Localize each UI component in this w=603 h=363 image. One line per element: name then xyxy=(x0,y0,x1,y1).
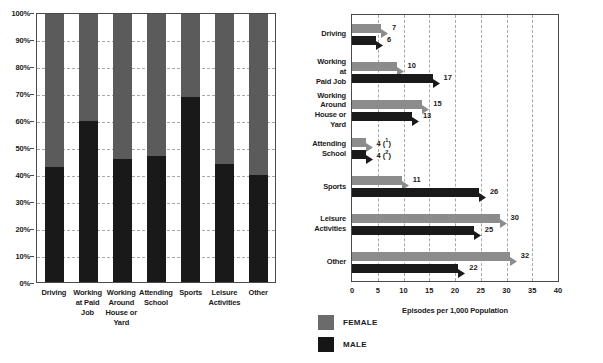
bar-row: 11 xyxy=(352,176,558,185)
label-line: Yard xyxy=(105,318,137,328)
bar-row: 4 (2) xyxy=(352,150,558,159)
bar-group: 76 xyxy=(352,15,558,53)
y-axis-category-label: LeisureActivities xyxy=(310,205,349,243)
label-line: Attending xyxy=(139,288,173,298)
label-block: Sports xyxy=(323,182,346,192)
bar-row: 26 xyxy=(352,188,558,197)
y-tick-mark xyxy=(30,94,34,95)
x-axis-category-label: LeisureActivities xyxy=(207,288,241,328)
label-line: House or xyxy=(105,308,137,318)
horizontal-bar-male xyxy=(352,264,465,273)
y-tick-mark xyxy=(30,13,34,14)
y-tick-label: 60% xyxy=(16,118,30,126)
y-tick-label: 20% xyxy=(16,226,30,234)
label-block: LeisureActivities xyxy=(314,214,346,234)
y-tick-label: 0% xyxy=(20,280,30,288)
label-block: Other xyxy=(327,257,346,267)
bar-row: 4 (1) xyxy=(352,138,558,147)
bar-arrow-tip-icon xyxy=(479,188,486,197)
label-line: Working xyxy=(72,288,104,298)
label-block: Driving xyxy=(321,29,346,39)
bar-body xyxy=(352,214,500,223)
x-tick-label: 20 xyxy=(451,287,459,295)
y-axis-category-label: AttendingSchool xyxy=(310,130,349,168)
label-block: WorkingatPaid Job xyxy=(316,57,346,86)
y-tick-label: 80% xyxy=(16,64,30,72)
x-axis-category-label: Other xyxy=(241,288,275,328)
horizontal-bar-female xyxy=(352,176,409,185)
x-axis-category-label: AttendingSchool xyxy=(138,288,174,328)
legend: FEMALE MALE xyxy=(318,312,378,356)
legend-item-female: FEMALE xyxy=(318,312,378,332)
stacked-column xyxy=(181,14,200,282)
horizontal-bar-male xyxy=(352,188,486,197)
bar-value-label: 32 xyxy=(521,252,529,260)
bar-arrow-tip-icon xyxy=(412,112,419,121)
bar-value-label: 26 xyxy=(490,188,498,196)
label-line: Yard xyxy=(315,120,346,130)
label-line: School xyxy=(139,298,173,308)
y-axis-category-label: WorkingAroundHouse orYard xyxy=(310,91,349,130)
bar-body xyxy=(352,74,433,83)
column-segment-male xyxy=(249,175,268,282)
bar-row: 7 xyxy=(352,24,558,33)
column-segment-male xyxy=(181,97,200,282)
bar-row: 25 xyxy=(352,226,558,235)
x-tick-label: 5 xyxy=(376,287,380,295)
horizontal-bar-female xyxy=(352,24,388,33)
legend-label-male: MALE xyxy=(343,340,367,349)
column-segment-female xyxy=(79,14,98,121)
bar-value-label: 25 xyxy=(485,226,493,234)
label-block: WorkingAroundHouse orYard xyxy=(315,91,346,130)
x-tick-label: 25 xyxy=(477,287,485,295)
horizontal-bar-female xyxy=(352,252,517,261)
bar-value-label: 10 xyxy=(408,62,416,70)
bar-body xyxy=(352,24,381,33)
horizontal-bar-female xyxy=(352,214,507,223)
bar-row: 17 xyxy=(352,74,558,83)
x-axis-category-label: Driving xyxy=(37,288,71,328)
bar-body xyxy=(352,150,366,159)
y-tick-mark xyxy=(30,175,34,176)
horizontal-bar-female xyxy=(352,100,429,109)
horizontal-bar-female xyxy=(352,138,373,147)
y-tick-label: 40% xyxy=(16,172,30,180)
bar-row: 10 xyxy=(352,62,558,71)
label-line: Around xyxy=(105,298,137,308)
label-line: Activities xyxy=(314,224,346,234)
y-tick-label: 90% xyxy=(16,37,30,45)
y-tick-mark xyxy=(30,202,34,203)
x-tick-label: 35 xyxy=(528,287,536,295)
y-tick-mark xyxy=(30,121,34,122)
bar-row: 30 xyxy=(352,214,558,223)
stacked-column xyxy=(79,14,98,282)
horizontal-bar-male xyxy=(352,74,440,83)
x-tick-label: 30 xyxy=(502,287,510,295)
legend-item-male: MALE xyxy=(318,334,378,354)
grouped-horizontal-bar-chart: DrivingWorkingatPaid JobWorkingAroundHou… xyxy=(310,0,603,363)
label-line: Working xyxy=(316,57,346,67)
y-tick-mark xyxy=(30,40,34,41)
bar-body xyxy=(352,226,474,235)
label-line: House or xyxy=(315,110,346,120)
bar-value-label: 15 xyxy=(433,100,441,108)
bar-body xyxy=(352,100,422,109)
x-tick-label: 15 xyxy=(425,287,433,295)
y-tick-mark xyxy=(30,67,34,68)
column-segment-male xyxy=(45,167,64,282)
horizontal-bar-male xyxy=(352,150,373,159)
y-axis-category-label: WorkingatPaid Job xyxy=(310,53,349,91)
x-axis-category-label: Sports xyxy=(174,288,208,328)
column-group xyxy=(37,14,71,282)
column-segment-female xyxy=(45,14,64,167)
bar-arrow-tip-icon xyxy=(402,176,409,185)
column-segment-male xyxy=(147,156,166,282)
bar-value-label: 7 xyxy=(392,24,396,32)
y-tick-label: 100% xyxy=(12,10,30,18)
label-line: Attending xyxy=(312,139,346,149)
bar-body xyxy=(352,112,412,121)
bar-arrow-tip-icon xyxy=(458,264,465,273)
label-line: Other xyxy=(242,288,274,298)
legend-label-female: FEMALE xyxy=(343,318,378,327)
label-line: Driving xyxy=(38,288,70,298)
